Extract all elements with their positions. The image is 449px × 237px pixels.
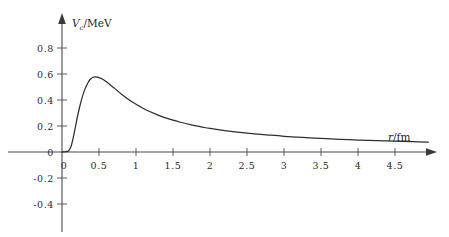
y-tick-label-0.8: 0.8 bbox=[37, 43, 54, 54]
x-tick-label-0.5: 0.5 bbox=[91, 160, 108, 171]
y-tick-label-0.4: 0.4 bbox=[37, 95, 54, 106]
x-tick-label-2.5: 2.5 bbox=[239, 160, 256, 171]
x-tick-label-1: 1 bbox=[133, 160, 140, 171]
x-axis-arrow-icon bbox=[426, 148, 437, 156]
potential-data-curve bbox=[62, 77, 428, 152]
x-tick-label-4: 4 bbox=[355, 160, 362, 171]
x-tick-label-1.5: 1.5 bbox=[165, 160, 182, 171]
y-tick-label-0.6: 0.6 bbox=[37, 69, 54, 80]
potential-curve-plot: 0.8 0.6 0.4 0.2 0 -0.2 -0.4 0 0.5 1 1.5 … bbox=[0, 0, 449, 237]
x-tick-label-0: 0 bbox=[61, 160, 68, 171]
y-tick-label-0.2: 0.2 bbox=[37, 121, 54, 132]
y-axis-title-unit: /MeV bbox=[83, 17, 112, 29]
x-tick-label-3.5: 3.5 bbox=[313, 160, 330, 171]
x-tick-label-4.5: 4.5 bbox=[387, 160, 404, 171]
y-tick-label-neg0.4: -0.4 bbox=[33, 199, 54, 210]
chart-figure: 0.8 0.6 0.4 0.2 0 -0.2 -0.4 0 0.5 1 1.5 … bbox=[0, 0, 449, 237]
x-tick-label-3: 3 bbox=[281, 160, 288, 171]
y-axis-title: Vc/MeV bbox=[72, 17, 112, 32]
y-axis-arrow-icon bbox=[58, 13, 66, 24]
x-tick-label-2: 2 bbox=[207, 160, 214, 171]
y-tick-label-0: 0 bbox=[47, 147, 54, 158]
y-tick-label-neg0.2: -0.2 bbox=[33, 173, 54, 184]
